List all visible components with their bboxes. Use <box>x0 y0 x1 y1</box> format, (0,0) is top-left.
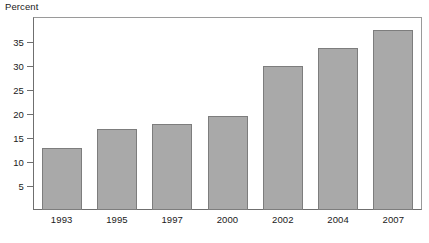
x-axis-tick-label: 2004 <box>308 214 368 225</box>
y-axis-tick <box>27 138 34 139</box>
x-axis-tick-label: 1995 <box>87 214 147 225</box>
y-axis-tick <box>27 114 34 115</box>
bar <box>97 129 137 210</box>
bar <box>208 116 248 210</box>
y-axis-tick <box>27 186 34 187</box>
x-axis-tick-label: 2000 <box>198 214 258 225</box>
x-axis-tick-label: 2007 <box>363 214 423 225</box>
y-axis-title: Percent <box>5 1 38 12</box>
y-axis-tick-label: 20 <box>2 109 24 120</box>
y-axis-tick-label: 10 <box>2 157 24 168</box>
x-axis-tick-label: 2002 <box>253 214 313 225</box>
bar <box>373 30 413 210</box>
y-axis-tick-label: 25 <box>2 85 24 96</box>
y-axis-tick <box>27 162 34 163</box>
bar-chart: Percent 5101520253035 199319951997200020… <box>0 0 429 243</box>
y-axis-tick <box>27 42 34 43</box>
x-axis-tick-label: 1993 <box>32 214 92 225</box>
y-axis-tick-label: 30 <box>2 61 24 72</box>
y-axis-tick-label: 35 <box>2 37 24 48</box>
bar <box>263 66 303 210</box>
x-axis-tick-label: 1997 <box>142 214 202 225</box>
bar-series <box>34 18 421 210</box>
y-axis-tick <box>27 66 34 67</box>
y-axis-tick-label: 15 <box>2 133 24 144</box>
bar <box>42 148 82 210</box>
bar <box>152 124 192 210</box>
y-axis-tick <box>27 90 34 91</box>
bar <box>318 48 358 210</box>
y-axis-tick-label: 5 <box>2 181 24 192</box>
